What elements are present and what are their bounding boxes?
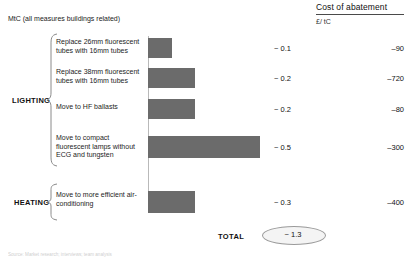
- row-mtc-value: ~ 0.5: [274, 143, 291, 152]
- group-label-lighting: LIGHTING: [12, 96, 50, 105]
- cost-unit-label: £/ tC: [316, 18, 404, 25]
- row-cost-value: –300: [332, 143, 404, 152]
- row-label: Move to more efficient air-conditioning: [56, 191, 140, 208]
- table-row: Move to HF ballasts ~ 0.2 –80: [56, 99, 408, 121]
- cost-of-abatement-header: Cost of abatement £/ tC: [316, 2, 404, 25]
- row-mtc-value: ~ 0.3: [274, 198, 291, 207]
- row-mtc-value: ~ 0.1: [274, 44, 291, 53]
- group-label-heating: HEATING: [14, 198, 49, 207]
- row-label: Replace 38mm fluorescent tubes with 16mm…: [56, 68, 140, 85]
- row-cost-value: –80: [332, 105, 404, 114]
- bar-measure-1: [148, 38, 172, 58]
- mtc-axis-note: MtC (all measures buildings related): [8, 15, 120, 22]
- bar-measure-5: [148, 191, 195, 213]
- header-divider: [316, 14, 404, 15]
- row-mtc-value: ~ 0.2: [274, 105, 291, 114]
- row-cost-value: –720: [332, 74, 404, 83]
- footnote: Source: Market research; interviews; tea…: [8, 252, 400, 259]
- table-row: Move to more efficient air-conditioning …: [56, 191, 408, 215]
- chart-baseline-axis: [148, 36, 149, 213]
- row-label: Move to HF ballasts: [56, 103, 140, 112]
- row-mtc-value: ~ 0.2: [274, 74, 291, 83]
- abatement-cost-chart: Cost of abatement £/ tC MtC (all measure…: [0, 0, 408, 260]
- bar-measure-4: [148, 136, 260, 158]
- cost-of-abatement-title: Cost of abatement: [316, 2, 404, 12]
- row-cost-value: –90: [332, 44, 404, 53]
- bar-measure-3: [148, 99, 195, 119]
- row-label: Move to compact fluorescent lamps withou…: [56, 134, 140, 160]
- table-row: Replace 38mm fluorescent tubes with 16mm…: [56, 68, 408, 90]
- row-cost-value: –400: [332, 198, 404, 207]
- table-row: Replace 26mm fluorescent tubes with 16mm…: [56, 38, 408, 60]
- row-label: Replace 26mm fluorescent tubes with 16mm…: [56, 38, 140, 55]
- table-row: Move to compact fluorescent lamps withou…: [56, 134, 408, 160]
- bar-measure-2: [148, 68, 195, 88]
- total-label: TOTAL: [218, 232, 244, 241]
- total-value: ~ 1.3: [262, 230, 324, 239]
